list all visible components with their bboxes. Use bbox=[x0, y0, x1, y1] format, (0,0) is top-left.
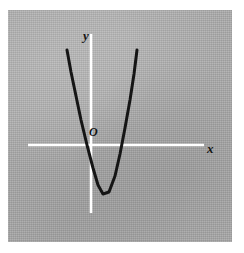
origin-label: O bbox=[89, 126, 98, 138]
parabola-curve bbox=[67, 50, 137, 194]
x-axis-label: x bbox=[207, 142, 214, 155]
y-axis-label: y bbox=[83, 29, 89, 42]
plot-panel: y x O bbox=[8, 10, 232, 242]
figure-container: y x O bbox=[0, 0, 244, 253]
graph-canvas bbox=[8, 10, 232, 242]
